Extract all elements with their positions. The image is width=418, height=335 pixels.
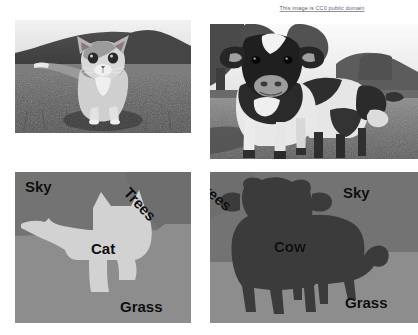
- label-cow: Cow: [274, 238, 306, 255]
- cows-photo: [210, 24, 418, 159]
- label-cat: Cat: [91, 240, 115, 257]
- label-sky: Sky: [343, 184, 370, 201]
- cows-photo-image: [210, 24, 418, 159]
- kitten-photo-image: [15, 20, 191, 133]
- kitten-segmentation: Sky Trees Cat Grass: [15, 172, 191, 323]
- cc0-license-link[interactable]: CC0 public domain: [315, 5, 364, 11]
- label-grass: Grass: [345, 294, 388, 311]
- figure-root: This image is CC0 public domain: [0, 0, 418, 335]
- image-attribution: This image is CC0 public domain: [262, 4, 382, 12]
- cows-segmentation: Trees Sky Cow Grass: [210, 172, 418, 323]
- kitten-photo: [15, 20, 191, 133]
- attribution-prefix: This image is: [280, 5, 316, 11]
- label-sky: Sky: [25, 178, 52, 195]
- label-grass: Grass: [120, 298, 163, 315]
